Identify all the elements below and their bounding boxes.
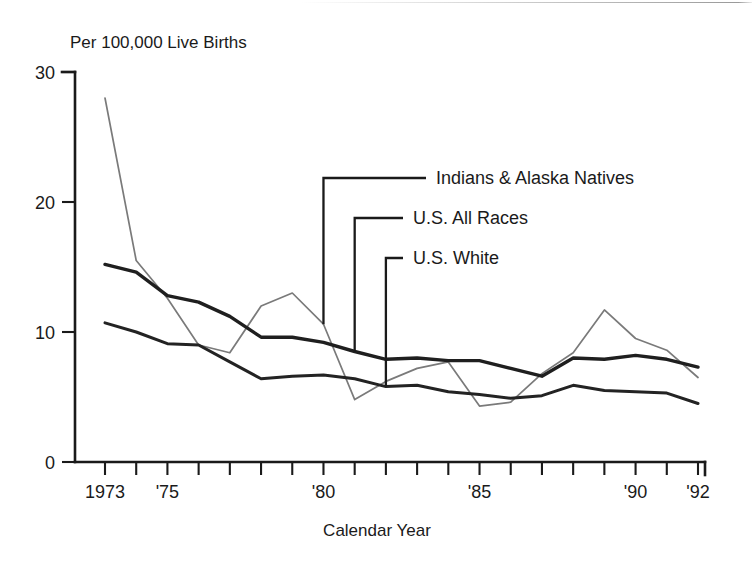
legend-label: U.S. White bbox=[413, 248, 499, 268]
legend-leader-line bbox=[355, 218, 403, 352]
x-tick-label: '92 bbox=[686, 482, 709, 502]
legend-label: Indians & Alaska Natives bbox=[436, 168, 634, 188]
legend-label: U.S. All Races bbox=[413, 208, 528, 228]
line-chart: Per 100,000 Live Births 0102030 1973'75'… bbox=[0, 0, 754, 566]
y-axis-label: Per 100,000 Live Births bbox=[70, 33, 247, 52]
chart-figure: Per 100,000 Live Births 0102030 1973'75'… bbox=[0, 0, 754, 566]
x-axis-title: Calendar Year bbox=[323, 521, 431, 540]
y-tick-label-group: 0102030 bbox=[35, 63, 55, 473]
scan-artifact-line bbox=[300, 2, 752, 3]
legend-leader-line bbox=[386, 258, 403, 387]
legend-label-group: Indians & Alaska NativesU.S. All RacesU.… bbox=[413, 168, 634, 268]
x-tick-label: 1973 bbox=[85, 482, 125, 502]
series-line bbox=[105, 264, 698, 376]
series-line bbox=[105, 323, 698, 404]
x-tick-label-group: 1973'75'80'85'90'92 bbox=[85, 482, 710, 502]
x-tick-label: '80 bbox=[312, 482, 335, 502]
x-tick-label: '85 bbox=[468, 482, 491, 502]
y-tick-group bbox=[62, 72, 75, 462]
y-tick-label: 10 bbox=[35, 323, 55, 343]
x-tick-label: '75 bbox=[156, 482, 179, 502]
x-tick-label: '90 bbox=[624, 482, 647, 502]
y-tick-label: 0 bbox=[45, 453, 55, 473]
y-tick-label: 30 bbox=[35, 63, 55, 83]
series-group bbox=[105, 98, 698, 406]
x-tick-group bbox=[105, 462, 698, 475]
legend-leader-line bbox=[323, 178, 426, 324]
y-tick-label: 20 bbox=[35, 193, 55, 213]
